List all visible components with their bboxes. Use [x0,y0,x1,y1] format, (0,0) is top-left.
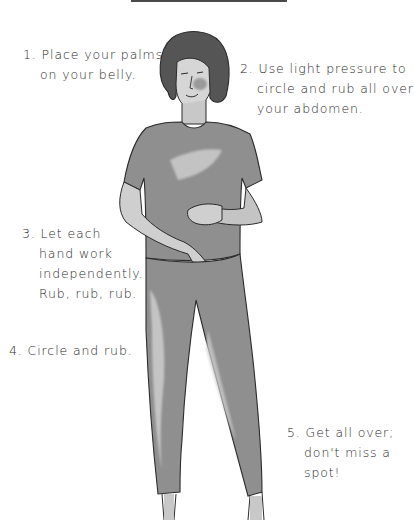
step-line: Circle and rub. [28,343,133,358]
step-3-text: 3. Let each hand work independently. Rub… [22,224,144,304]
step-line: Rub, rub, rub. [22,284,144,304]
step-line: on your belly. [23,65,163,85]
step-line: Use light pressure to [259,61,407,76]
step-line: Place your palms [42,47,163,62]
step-line: don't miss a [287,443,394,463]
step-number: 5. [287,425,301,440]
step-line: your abdomen. [240,99,414,119]
step-4-text: 4. Circle and rub. [9,341,133,361]
pants-icon [146,254,262,496]
shirt-icon [124,122,262,261]
step-line: independently. [22,264,144,284]
step-5-text: 5. Get all over; don't miss a spot! [287,423,394,483]
step-2-text: 2. Use light pressure to circle and rub … [240,59,414,119]
step-number: 2. [240,61,254,76]
step-number: 1. [23,47,37,62]
step-line: circle and rub all over [240,79,414,99]
step-1-text: 1. Place your palms on your belly. [23,45,163,85]
step-line: Let each [41,226,102,241]
step-number: 3. [22,226,36,241]
step-line: spot! [287,463,394,483]
step-number: 4. [9,343,23,358]
step-line: hand work [22,244,144,264]
step-line: Get all over; [306,425,395,440]
